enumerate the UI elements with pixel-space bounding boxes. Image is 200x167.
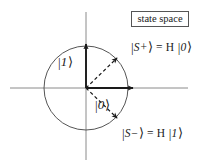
ket-zero-bar: | [95, 98, 98, 113]
state-space-diagram: |1⟩ |0⟩ |S+⟩ = H |0⟩ |S−⟩ = H |1⟩ state … [0, 0, 200, 167]
s-plus-equals: = [153, 41, 166, 53]
s-plus-arg-angle: ⟩ [187, 39, 192, 54]
s-minus-bar: | [122, 126, 125, 141]
ket-one-angle: ⟩ [68, 54, 73, 69]
s-minus-arg-bar: | [165, 126, 171, 141]
ket-one-value: 1 [61, 54, 68, 69]
s-minus-arg-angle: ⟩ [178, 125, 183, 140]
s-plus-arg-bar: | [174, 40, 180, 55]
s-minus-equals: = [144, 127, 157, 139]
label-ket-one: |1⟩ [58, 55, 73, 68]
ket-one-bar: | [58, 55, 61, 70]
state-space-caption-text: state space [137, 14, 182, 25]
label-equation-s-plus: |S+⟩ = H |0⟩ [131, 40, 192, 54]
state-space-caption-box: state space [131, 11, 189, 27]
s-minus-state: S− [125, 127, 139, 139]
ket-zero-value: 0 [98, 97, 105, 112]
s-plus-bar: | [131, 40, 134, 55]
ket-zero-angle: ⟩ [105, 97, 110, 112]
s-plus-state: S+ [134, 41, 148, 53]
label-ket-zero: |0⟩ [95, 98, 110, 111]
vector-ket-s-plus [86, 58, 117, 88]
label-equation-s-minus: |S−⟩ = H |1⟩ [122, 126, 183, 140]
